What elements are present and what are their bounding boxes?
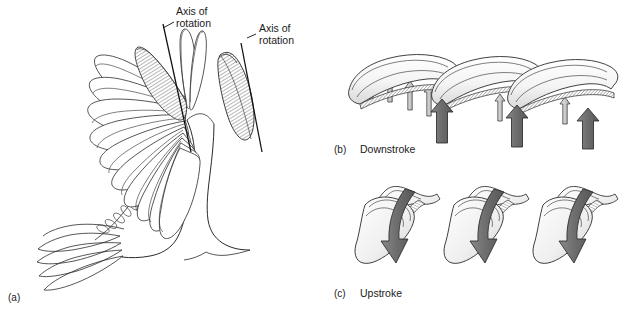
panel-b-letter: (b) (334, 144, 346, 155)
axis-label-feather-line1: Axis of (259, 22, 291, 34)
axis-label-feather-line2: rotation (259, 34, 294, 46)
panel-c-letter: (c) (334, 288, 346, 299)
panel-c-caption: Upstroke (360, 287, 402, 299)
figure-canvas: Axis of rotation Axis of rotation (a) (0, 0, 642, 322)
axis-label-wing-line1: Axis of (176, 5, 208, 17)
axis-label-wing-line2: rotation (176, 17, 211, 29)
panel-b-caption: Downstroke (360, 143, 416, 155)
figure-root: Axis of rotation Axis of rotation (a) (0, 0, 642, 322)
panel-a-letter: (a) (8, 292, 20, 303)
